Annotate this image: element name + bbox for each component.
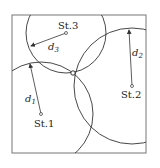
station-point-st3 [65, 32, 68, 35]
station-label-st1: St.1 [34, 118, 54, 129]
distance-label-d1: d1 [25, 93, 36, 106]
station-point-st2 [131, 85, 134, 88]
distance-label-d3: d3 [48, 41, 59, 54]
range-circle-st1 [0, 62, 93, 166]
range-circle-st3 [26, 0, 106, 73]
distance-arrow-d2 [129, 30, 132, 86]
distance-label-d2: d2 [132, 47, 143, 60]
trilateration-diagram: St.1 St.2 St.3 d1 d2 d3 [0, 0, 160, 168]
station-point-st1 [40, 113, 43, 116]
distance-arrow-d1 [30, 64, 41, 114]
station-label-st3: St.3 [58, 20, 78, 31]
frame [12, 15, 146, 153]
station-label-st2: St.2 [121, 89, 141, 100]
range-circle-st2 [74, 28, 160, 144]
intersection-point [71, 71, 75, 75]
